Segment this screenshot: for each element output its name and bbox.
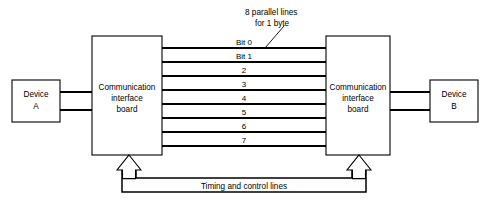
device-b-label-line1: Device bbox=[441, 90, 466, 99]
control-arrow-left bbox=[117, 155, 141, 179]
device-b-box bbox=[430, 80, 478, 122]
note-leader-line bbox=[265, 26, 284, 48]
diagram-canvas: 8 parallel lines for 1 byte Device A Dev… bbox=[0, 0, 488, 206]
left-board-label-line1: Communication bbox=[99, 83, 156, 92]
control-path-inner bbox=[136, 170, 352, 178]
device-a-label-line1: Device bbox=[23, 90, 48, 99]
bus-note-line2: for 1 byte bbox=[255, 19, 290, 28]
bus-label-bit-5: 5 bbox=[242, 108, 247, 117]
right-board-label-line1: Communication bbox=[330, 83, 387, 92]
right-board-label-line2: interface bbox=[342, 94, 374, 103]
device-a-box bbox=[12, 80, 60, 122]
bus-label-bit-2: 2 bbox=[242, 66, 247, 75]
left-board-label-line3: board bbox=[117, 105, 138, 114]
right-board-label-line3: board bbox=[348, 105, 369, 114]
bus-label-bit-4: 4 bbox=[242, 94, 247, 103]
bus-label-bit-6: 6 bbox=[242, 122, 247, 131]
bus-label-bit-0: Bit 0 bbox=[236, 38, 253, 47]
bus-label-bit-7: 7 bbox=[242, 136, 247, 145]
left-board-label-line2: interface bbox=[111, 94, 143, 103]
bus-label-bit-3: 3 bbox=[242, 80, 247, 89]
bus-note-line1: 8 parallel lines bbox=[245, 8, 297, 17]
device-a-label-line2: A bbox=[33, 102, 39, 111]
bus-label-bit-1: Bit 1 bbox=[236, 52, 253, 61]
control-lines-label: Timing and control lines bbox=[201, 182, 287, 191]
control-arrow-right bbox=[347, 155, 371, 179]
device-b-label-line2: B bbox=[451, 102, 457, 111]
parallel-interface-diagram: 8 parallel lines for 1 byte Device A Dev… bbox=[0, 0, 488, 206]
